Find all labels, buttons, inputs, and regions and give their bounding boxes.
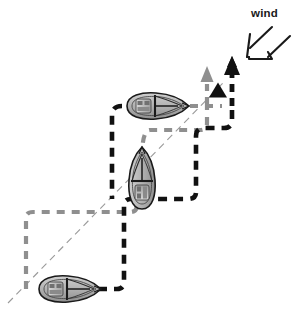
wind-label: wind [251, 7, 278, 19]
sailing-diagram: wind [0, 0, 296, 311]
diagram-canvas [0, 0, 296, 311]
